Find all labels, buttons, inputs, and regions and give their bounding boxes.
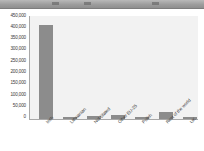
y-axis-tick-label: 50,000 <box>0 104 26 109</box>
y-axis-tick-label: 450,000 <box>0 14 26 19</box>
toolbar-glyph-2-icon[interactable] <box>84 2 91 5</box>
plot-area <box>29 16 198 120</box>
y-axis-tick-label: 250,000 <box>0 59 26 64</box>
y-axis-tick-label: 100,000 <box>0 93 26 98</box>
y-axis-tick-label: 200,000 <box>0 70 26 75</box>
y-axis-tick-label: 300,000 <box>0 47 26 52</box>
toolbar-glyph-3-icon[interactable] <box>152 2 159 5</box>
plot-background <box>30 16 198 119</box>
y-axis-tick-label: 350,000 <box>0 36 26 41</box>
y-axis-tick-label: 0 <box>0 115 26 120</box>
app-toolbar-strip[interactable] <box>0 0 204 9</box>
y-axis-tick-label: 400,000 <box>0 25 26 30</box>
x-axis: Irish Lithuanian Not Stated Other EU-25 … <box>29 121 204 151</box>
bar-irish[interactable] <box>39 25 53 119</box>
bar-chart-figure: 450,000 400,000 350,000 300,000 250,000 … <box>0 9 204 151</box>
y-axis-tick-label: 150,000 <box>0 81 26 86</box>
toolbar-glyph-1-icon[interactable] <box>52 2 59 5</box>
